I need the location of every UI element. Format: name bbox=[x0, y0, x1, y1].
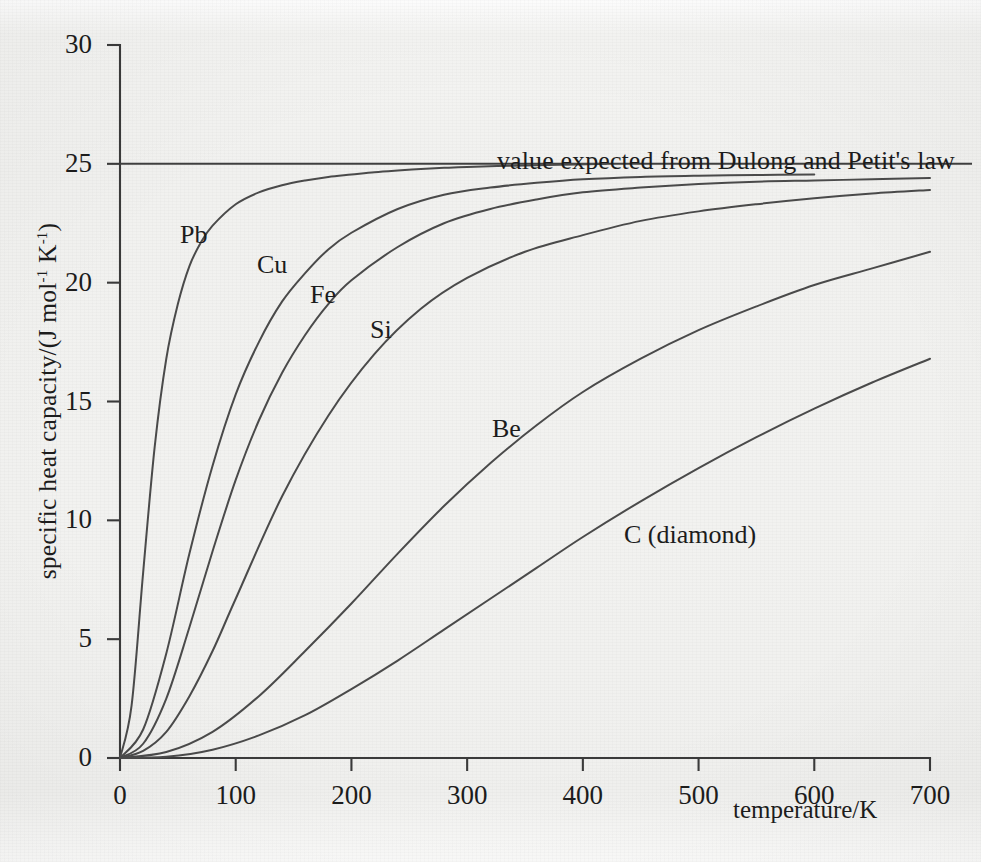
y-tick-label: 20 bbox=[46, 269, 92, 296]
y-tick-label: 30 bbox=[46, 31, 92, 58]
x-tick-label: 100 bbox=[201, 782, 271, 809]
curve-si bbox=[120, 190, 930, 758]
curve-label-fe: Fe bbox=[310, 282, 336, 308]
curve-label-c-diamond: C (diamond) bbox=[624, 522, 756, 548]
curve-label-si: Si bbox=[370, 317, 392, 343]
y-tick-label: 5 bbox=[46, 625, 92, 652]
y-tick-label: 15 bbox=[46, 388, 92, 415]
y-tick-marks bbox=[107, 45, 120, 758]
x-tick-label: 400 bbox=[548, 782, 618, 809]
data-curves-group bbox=[120, 164, 930, 758]
curve-label-be: Be bbox=[492, 416, 521, 442]
y-axis-title-end: ) bbox=[33, 223, 62, 232]
curve-cu bbox=[120, 175, 814, 758]
x-tick-label: 700 bbox=[895, 782, 965, 809]
x-tick-marks bbox=[120, 758, 930, 771]
y-axis-title-text: specific heat capacity/(J mol bbox=[33, 282, 62, 579]
y-tick-label: 0 bbox=[46, 744, 92, 771]
x-tick-label: 200 bbox=[316, 782, 386, 809]
dulong-petit-annotation: value expected from Dulong and Petit's l… bbox=[497, 148, 955, 174]
x-tick-label: 300 bbox=[432, 782, 502, 809]
x-tick-label: 600 bbox=[779, 782, 849, 809]
y-axis-title-mid: K bbox=[33, 244, 62, 269]
x-tick-label: 500 bbox=[664, 782, 734, 809]
y-tick-label: 25 bbox=[46, 150, 92, 177]
y-axis-title-sup-k: -1 bbox=[34, 231, 50, 244]
x-tick-label: 0 bbox=[85, 782, 155, 809]
curve-fe bbox=[120, 178, 930, 758]
y-tick-label: 10 bbox=[46, 506, 92, 533]
curve-pb bbox=[120, 164, 606, 758]
figure-canvas: specific heat capacity/(J mol-1 K-1) tem… bbox=[0, 0, 981, 862]
curve-label-cu: Cu bbox=[257, 252, 287, 278]
curve-be bbox=[120, 252, 930, 758]
curve-c-diamond bbox=[120, 359, 930, 758]
curve-label-pb: Pb bbox=[180, 222, 207, 248]
chart-plot-svg bbox=[0, 0, 981, 862]
